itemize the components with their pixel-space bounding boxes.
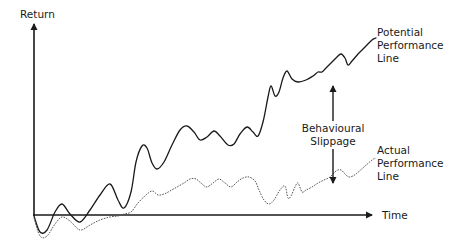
actual-line-label: Actual Performance Line [377, 144, 444, 183]
behavioural-slippage-label: Behavioural Slippage [301, 122, 365, 148]
y-axis-label: Return [20, 8, 55, 21]
x-axis-label: Time [382, 209, 408, 222]
slippage-label-line-2: Slippage [301, 135, 365, 148]
slippage-label-line-1: Behavioural [301, 122, 365, 135]
potential-label-line-2: Performance [377, 39, 444, 52]
actual-label-line-1: Actual [377, 144, 444, 157]
potential-label-line-1: Potential [377, 26, 444, 39]
potential-line-label: Potential Performance Line [377, 26, 444, 65]
actual-label-line-3: Line [377, 170, 444, 183]
potential-label-line-3: Line [377, 52, 444, 65]
actual-performance-line [34, 158, 376, 238]
actual-label-line-2: Performance [377, 157, 444, 170]
